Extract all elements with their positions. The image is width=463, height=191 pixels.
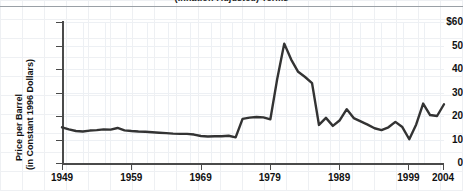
price-line-series — [62, 22, 444, 163]
x-tick-label-1979: 1979 — [250, 172, 290, 183]
price-line-path — [62, 44, 444, 140]
x-tick-mark-1989 — [339, 164, 340, 170]
x-tick-mark-1949 — [62, 164, 63, 170]
x-tick-mark-1959 — [131, 164, 132, 170]
x-tick-mark-1999 — [408, 164, 409, 170]
y-axis-title-line1: Price per Barrel — [14, 94, 25, 161]
x-tick-label-1959: 1959 — [111, 172, 151, 183]
y-axis-title: Price per Barrel (in Constant 1996 Dolla… — [2, 18, 32, 163]
x-tick-label-1949: 1949 — [42, 172, 82, 183]
x-tick-label-1989: 1989 — [319, 172, 359, 183]
x-tick-label-2004: 2004 — [423, 172, 463, 183]
x-axis-line — [62, 163, 444, 165]
x-tick-mark-1979 — [270, 164, 271, 170]
chart-title: (Inflation-Adjusted) Terms — [0, 0, 463, 3]
x-tick-mark-1969 — [201, 164, 202, 170]
x-tick-mark-2004 — [443, 164, 444, 170]
title-divider — [0, 6, 463, 7]
oil-price-chart-figure: (Inflation-Adjusted) Terms Price per Bar… — [0, 0, 463, 191]
y-axis-title-line2: (in Constant 1996 Dollars) — [25, 59, 36, 170]
x-tick-label-1969: 1969 — [181, 172, 221, 183]
